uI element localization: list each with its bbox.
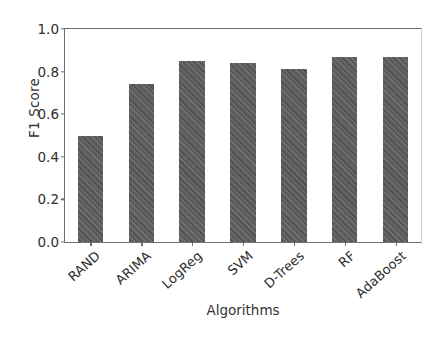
y-tick-mark <box>61 241 65 242</box>
x-tick-label: AdaBoost <box>352 248 408 301</box>
x-tick-mark <box>192 242 193 246</box>
x-tick-label: D-Trees <box>261 248 307 291</box>
y-tick-mark <box>61 156 65 157</box>
x-tick-label: ARIMA <box>113 248 155 288</box>
bar-adaboost <box>383 57 408 242</box>
x-tick-label: LogReg <box>159 248 205 292</box>
x-tick-mark <box>243 242 244 246</box>
bar-d-trees <box>281 69 306 242</box>
x-tick-label: RAND <box>66 248 104 284</box>
bar-rf <box>332 57 357 242</box>
bar-svm <box>230 63 255 242</box>
x-tick-label: RF <box>335 248 357 270</box>
y-tick-mark <box>61 199 65 200</box>
x-tick-mark <box>141 242 142 246</box>
y-tick-mark <box>61 114 65 115</box>
chart-figure: F1 Score 0.00.20.40.60.81.0 RANDARIMALog… <box>0 0 445 337</box>
x-tick-mark <box>396 242 397 246</box>
y-tick-mark <box>61 71 65 72</box>
x-tick-mark <box>294 242 295 246</box>
x-axis-title: Algorithms <box>64 302 422 318</box>
bar-logreg <box>179 61 204 242</box>
bar-arima <box>129 84 154 242</box>
x-tick-label: SVM <box>225 248 256 278</box>
x-tick-mark <box>345 242 346 246</box>
bar-rand <box>78 136 103 243</box>
y-tick-mark <box>61 28 65 29</box>
x-tick-mark <box>90 242 91 246</box>
plot-area: 0.00.20.40.60.81.0 <box>64 28 422 243</box>
